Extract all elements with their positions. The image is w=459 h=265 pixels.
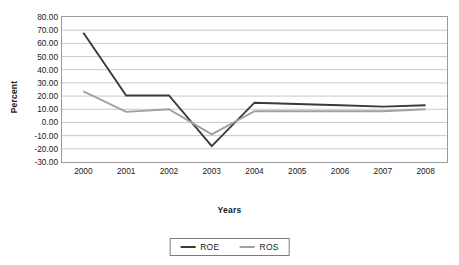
y-axis-tick-label: 80.00 [10, 12, 58, 22]
series-line-ros [83, 91, 425, 134]
x-axis-tick-labels: 200020012002200320042005200620072008 [61, 166, 448, 180]
x-axis-tick-label: 2001 [117, 166, 135, 176]
y-axis-tick-label: 20.00 [10, 91, 58, 101]
legend-line-icon [240, 246, 255, 249]
y-axis-tick-label: 10.00 [10, 104, 58, 114]
y-axis-tick-label: -10.00 [10, 131, 58, 141]
y-axis-tick-label: -20.00 [10, 144, 58, 154]
y-axis-tick-label: 0.00 [10, 117, 58, 127]
y-axis-tick-label: 40.00 [10, 65, 58, 75]
chart-legend: ROEROS [169, 238, 290, 256]
plot-svg [62, 17, 447, 162]
y-axis-tick-label: 30.00 [10, 78, 58, 88]
x-axis-tick-label: 2005 [288, 166, 306, 176]
legend-label: ROS [260, 242, 279, 252]
legend-item-ros[interactable]: ROS [240, 242, 279, 252]
y-axis-tick-labels: 80.0070.0060.0050.0040.0030.0020.0010.00… [10, 16, 58, 163]
x-axis-tick-label: 2000 [74, 166, 92, 176]
y-axis-tick-label: 60.00 [10, 38, 58, 48]
series-line-roe [83, 33, 425, 146]
y-axis-tick-label: 50.00 [10, 52, 58, 62]
x-axis-tick-label: 2003 [202, 166, 220, 176]
legend-item-roe[interactable]: ROE [180, 242, 219, 252]
legend-line-icon [180, 246, 195, 249]
y-axis-tick-label: 70.00 [10, 25, 58, 35]
x-axis-title: Years [0, 205, 459, 215]
x-axis-tick-label: 2006 [331, 166, 349, 176]
legend-label: ROE [200, 242, 219, 252]
x-axis-tick-label: 2007 [374, 166, 392, 176]
plot-area [61, 16, 448, 163]
line-chart: Percent 80.0070.0060.0050.0040.0030.0020… [0, 0, 459, 265]
x-axis-tick-label: 2004 [245, 166, 263, 176]
x-axis-tick-label: 2002 [160, 166, 178, 176]
x-axis-tick-label: 2008 [416, 166, 434, 176]
y-axis-tick-label: -30.00 [10, 157, 58, 167]
